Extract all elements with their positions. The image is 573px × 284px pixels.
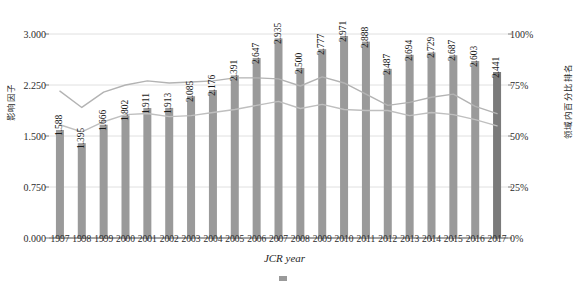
bar-value-label: 2.603 <box>469 46 479 67</box>
bar <box>78 143 86 238</box>
y-tick-label: 0.000 <box>2 233 46 244</box>
bar-value-label: 2.729 <box>426 37 436 58</box>
bar-value-label: 2.487 <box>382 54 392 75</box>
bar <box>122 115 130 238</box>
y-tick-label: 1.500 <box>2 131 46 142</box>
x-axis-caption: JCR year <box>0 252 569 264</box>
right-axis-title: 领域内百分比排名 <box>561 37 573 165</box>
bar-value-label: 1.666 <box>98 109 108 130</box>
bar-value-label: 1.588 <box>54 115 64 136</box>
bar-value-label: 2.694 <box>404 39 414 60</box>
bar-value-label: 2.971 <box>338 21 348 42</box>
bar <box>406 55 414 238</box>
bar <box>275 38 283 238</box>
left-axis-ticks: 0.0000.7501.5002.2503.000 <box>0 0 46 284</box>
bar <box>340 36 348 238</box>
bar-value-label: 2.500 <box>294 53 304 74</box>
bar <box>165 108 173 238</box>
legend-swatch-bars <box>279 276 287 281</box>
bar <box>428 52 436 238</box>
y2-tick-label: 25% <box>510 182 550 193</box>
bar-value-label: 2.441 <box>491 57 501 78</box>
figure-caption-strip <box>0 274 569 283</box>
bar <box>296 68 304 238</box>
y2-tick-label: 50% <box>510 131 550 142</box>
bar-value-label: 1.913 <box>163 93 173 114</box>
bar <box>100 125 108 238</box>
y-tick-label: 3.000 <box>2 29 46 40</box>
right-axis-ticks: 0%25%50%75%100% <box>510 0 558 284</box>
bar-value-label: 1.911 <box>141 93 151 114</box>
bar-value-label: 2.777 <box>316 34 326 55</box>
bar-value-label: 2.647 <box>251 43 261 64</box>
bar <box>56 130 64 238</box>
y-tick-label: 0.750 <box>2 182 46 193</box>
bar-value-label: 2.888 <box>360 26 370 47</box>
bar <box>493 72 501 238</box>
y-tick-label: 2.250 <box>2 80 46 91</box>
bar-value-label: 2.687 <box>447 40 457 61</box>
y2-tick-label: 0% <box>510 233 550 244</box>
bar <box>384 69 392 238</box>
bar-value-label: 1.802 <box>120 100 130 121</box>
bar <box>253 58 261 238</box>
x-tick-label: 2017 <box>480 234 514 244</box>
y2-tick-label: 75% <box>510 80 550 91</box>
bar <box>471 61 479 238</box>
bar-value-label: 2.176 <box>207 75 217 96</box>
bar <box>362 42 370 238</box>
bar-value-label: 2.935 <box>273 23 283 44</box>
bar-value-label: 2.391 <box>229 60 239 81</box>
bar-value-label: 1.395 <box>76 128 86 149</box>
bar <box>449 55 457 238</box>
bar <box>187 96 195 238</box>
bar <box>143 108 151 238</box>
bar <box>231 75 239 238</box>
bar-value-label: 2.085 <box>185 81 195 102</box>
y2-tick-label: 100% <box>510 29 550 40</box>
